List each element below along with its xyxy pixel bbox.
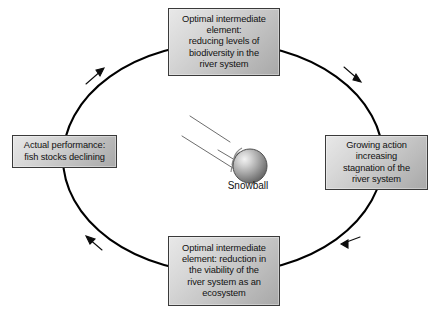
snowball-label: Snowball: [193, 180, 303, 191]
node-left-label: Actual performance: fish stocks declinin…: [24, 140, 105, 163]
top-right-arrow-icon: [344, 67, 361, 82]
diagram-canvas: Snowball Optimal intermediate element: r…: [0, 0, 445, 314]
node-box-bottom[interactable]: Optimal intermediate element: reduction …: [168, 236, 280, 306]
snowball-sphere-icon: [233, 149, 267, 183]
node-box-right[interactable]: Growing action increasing stagnation of …: [325, 135, 428, 190]
node-bottom-label: Optimal intermediate element: reduction …: [182, 243, 266, 300]
motion-trail-lines: [182, 116, 240, 170]
node-box-top[interactable]: Optimal intermediate element: reducing l…: [168, 8, 280, 76]
node-top-label: Optimal intermediate element: reducing l…: [182, 14, 266, 71]
node-right-label: Growing action increasing stagnation of …: [343, 140, 410, 185]
node-box-left[interactable]: Actual performance: fish stocks declinin…: [12, 135, 117, 168]
top-left-arrow-icon: [86, 68, 104, 84]
bottom-right-arrow-icon: [341, 237, 360, 248]
bottom-left-arrow-icon: [86, 236, 102, 250]
